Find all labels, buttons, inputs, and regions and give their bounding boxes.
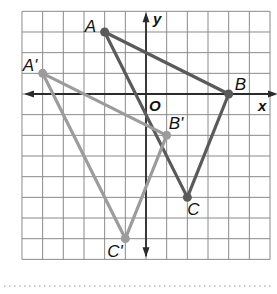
vertex-point — [38, 69, 47, 78]
y-axis-down-arrow-icon — [143, 247, 150, 257]
vertex-point — [224, 90, 233, 99]
vertex-label: B' — [169, 114, 184, 133]
vertex-point — [100, 27, 109, 36]
coordinate-plane-diagram: ABCA'B'C'xyO — [0, 0, 277, 294]
origin-label: O — [149, 97, 161, 114]
vertex-label: A' — [22, 56, 38, 75]
y-axis-label: y — [152, 10, 162, 27]
vertex-label: A — [84, 17, 96, 36]
vertex-label: C' — [107, 242, 123, 261]
y-axis-up-arrow-icon — [143, 12, 150, 22]
vertex-label: C — [187, 200, 200, 219]
x-axis-left-arrow-icon — [24, 91, 34, 98]
x-axis-label: x — [257, 97, 267, 114]
vertex-label: B — [235, 75, 246, 94]
x-axis-right-arrow-icon — [268, 91, 277, 98]
